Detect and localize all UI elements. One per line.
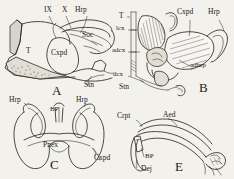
- label-b-dcx: dcx: [113, 71, 123, 78]
- label-b-adhrp: adhrp: [190, 62, 206, 69]
- label-b-stn: Stn: [119, 83, 129, 91]
- label-e-aed: Aed: [163, 111, 176, 119]
- panel-b-artwork: [131, 12, 227, 96]
- panel-letter-e: E: [175, 160, 183, 173]
- label-a-t: T: [26, 47, 31, 55]
- label-e-crpt: Crpt: [117, 112, 130, 120]
- label-c-hrp-right: Hrp: [76, 96, 88, 104]
- panel-letter-b: B: [199, 81, 208, 94]
- label-b-hrp: Hrp: [208, 8, 220, 16]
- label-b-adcx: adcx: [112, 47, 125, 54]
- label-b-cxpd: Cxpd: [177, 8, 193, 16]
- label-c-bp: BP: [50, 106, 59, 113]
- label-a-ix: IX: [44, 6, 52, 14]
- label-c-pnex: Pnex: [43, 141, 58, 149]
- figure-plate: IX X Hrp Soc T Cxpd Stn A T lcx adcx dcx…: [0, 0, 234, 179]
- label-c-cxpd: Cxpd: [94, 154, 110, 162]
- label-a-hrp: Hrp: [75, 6, 87, 14]
- label-a-stn: Stn: [84, 81, 94, 89]
- label-b-t: T: [119, 12, 124, 20]
- panel-letter-c: C: [50, 158, 59, 171]
- panel-letter-a: A: [52, 84, 61, 97]
- label-e-bp: BP: [145, 153, 154, 160]
- label-a-x: X: [62, 6, 67, 14]
- label-b-lcx: lcx: [116, 25, 125, 32]
- panel-c-artwork: [14, 103, 104, 169]
- label-a-cxpd: Cxpd: [51, 49, 67, 57]
- label-e-dej: Dej: [141, 165, 152, 173]
- label-a-soc: Soc: [82, 31, 93, 39]
- label-c-hrp-left: Hrp: [9, 96, 21, 104]
